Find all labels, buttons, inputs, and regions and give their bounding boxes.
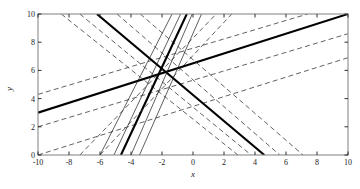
chart-line-line-1-dash-lower2 [38,58,348,155]
x-tick-label: 0 [191,158,195,167]
x-tick-label: 4 [253,158,257,167]
x-tick-label: -6 [97,158,104,167]
chart-line-line-2-dash-upper [61,14,238,155]
x-tick-label: 6 [284,158,288,167]
chart-line-line-2-solid [97,14,264,155]
x-tick-label: -8 [66,158,73,167]
y-tick-label: 4 [31,94,35,103]
chart-line-line-2-dash-mid [80,14,251,155]
x-tick-label: 2 [222,158,226,167]
chart-line-line-2-dash-lower [117,14,280,155]
chart-figure: x y -10-8-6-4-202468100246810 [0,0,360,189]
chart-line-line-3-solid [121,14,187,155]
axes-frame [38,14,348,155]
x-tick-label: 8 [315,158,319,167]
x-axis-label: x [191,169,195,179]
axis-ticks [38,14,348,155]
y-tick-label: 8 [31,38,35,47]
y-tick-label: 0 [31,151,35,160]
y-tick-label: 6 [31,66,35,75]
chart-line-line-1-dash-upper [38,14,308,94]
y-tick-label: 10 [27,10,35,19]
y-tick-label: 2 [31,122,35,131]
x-tick-label: 10 [344,158,352,167]
chart-line-line-4-dash-steep-a [80,14,216,155]
x-tick-label: -4 [128,158,135,167]
x-tick-label: -2 [159,158,166,167]
y-axis-label: y [4,87,14,91]
chart-canvas [0,0,360,189]
chart-line-line-1-solid [38,14,348,113]
